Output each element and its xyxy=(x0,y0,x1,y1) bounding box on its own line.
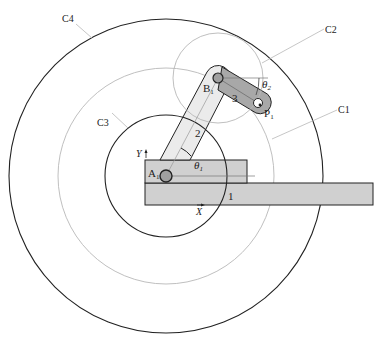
y-axis-arrowhead xyxy=(145,149,148,153)
label-theta2: θ2 xyxy=(262,78,271,92)
label-link2: 2 xyxy=(195,127,201,139)
joint-b1 xyxy=(213,73,223,83)
c2-leader xyxy=(262,29,324,63)
label-link1: 1 xyxy=(228,190,234,202)
c3-leader xyxy=(112,113,128,128)
link1-base-bar xyxy=(145,183,373,205)
label-p1: P1 xyxy=(264,107,274,121)
joint-p1 xyxy=(254,99,263,108)
label-x-axis: X xyxy=(195,206,203,217)
manipulator-diagram: C4 C2 C1 C3 B1 A1 P1 1 2 3 θ1 θ2 Y X xyxy=(0,0,385,342)
label-c4: C4 xyxy=(62,13,74,24)
joint-p1-dot xyxy=(259,104,262,107)
label-c2: C2 xyxy=(325,24,337,35)
label-c3: C3 xyxy=(97,117,109,128)
c1-leader xyxy=(272,110,337,139)
label-y-axis: Y xyxy=(136,148,143,159)
label-c1: C1 xyxy=(338,104,350,115)
diagram-canvas: C4 C2 C1 C3 B1 A1 P1 1 2 3 θ1 θ2 Y X xyxy=(0,0,385,342)
c4-leader xyxy=(76,24,92,38)
label-link3: 3 xyxy=(232,92,238,104)
joint-a1 xyxy=(160,170,172,182)
